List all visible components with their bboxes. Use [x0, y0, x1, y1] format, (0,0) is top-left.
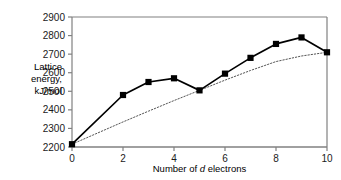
x-tick-label: 2	[120, 153, 126, 164]
y-tick-label: 2300	[43, 123, 66, 134]
lattice-energy-chart-figure: 22002300240025002600270028002900 0246810…	[0, 0, 341, 180]
x-axis-title-suffix: electrons	[205, 163, 246, 174]
data-point-marker	[196, 87, 202, 93]
data-point-marker	[273, 41, 279, 47]
data-point-marker	[120, 92, 126, 98]
y-tick-label: 2700	[43, 49, 66, 60]
data-point-marker	[69, 141, 75, 147]
x-axis-title: Number of d electrons	[153, 163, 247, 174]
y-tick-label: 2900	[43, 12, 66, 23]
chart-canvas: 22002300240025002600270028002900 0246810…	[0, 0, 341, 180]
data-point-marker	[145, 79, 151, 85]
y-tick-label: 2200	[43, 142, 66, 153]
data-point-marker	[324, 49, 330, 55]
data-point-marker	[222, 71, 228, 77]
y-axis-title: Latticeenergy,kJ/mol	[31, 61, 62, 96]
data-point-marker	[247, 55, 253, 61]
x-axis-title-prefix: Number of	[153, 163, 200, 174]
data-point-marker	[171, 75, 177, 81]
x-tick-label: 8	[273, 153, 279, 164]
y-axis-title-line: kJ/mol	[35, 85, 62, 96]
y-axis-title-line: energy,	[31, 73, 62, 84]
y-tick-label: 2800	[43, 30, 66, 41]
data-point-marker	[298, 34, 304, 40]
y-tick-label: 2400	[43, 104, 66, 115]
x-tick-label: 0	[69, 153, 75, 164]
y-axis-title-line: Lattice	[34, 61, 62, 72]
x-axis-title-text: Number of d electrons	[153, 163, 247, 174]
x-tick-label: 10	[321, 153, 333, 164]
